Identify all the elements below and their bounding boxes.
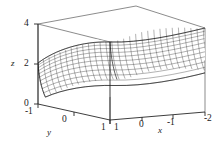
x-tick-label-1: 1 (114, 123, 119, 133)
y-axis-label: y (47, 128, 51, 137)
x-tick-label-minus-1: -1 (167, 118, 175, 128)
z-tick-label-4: 4 (24, 19, 29, 29)
x-tick-label-0: 0 (139, 120, 144, 130)
y-tick-label-1: 1 (101, 123, 106, 133)
z-tick-label-2: 2 (24, 59, 29, 69)
y-tick-label-minus-1: -1 (25, 107, 33, 117)
x-tick-label-minus-2: -2 (204, 114, 212, 124)
z-axis-label: z (11, 59, 15, 68)
surface-mesh (37, 24, 210, 101)
y-tick-label-0: 0 (62, 115, 67, 125)
plot-canvas (0, 0, 220, 145)
surface-plot-figure: 4 2 0 z -1 0 1 y 1 0 -1 -2 x (0, 0, 220, 145)
x-axis-line (110, 112, 205, 120)
x-axis-label: x (158, 126, 162, 135)
